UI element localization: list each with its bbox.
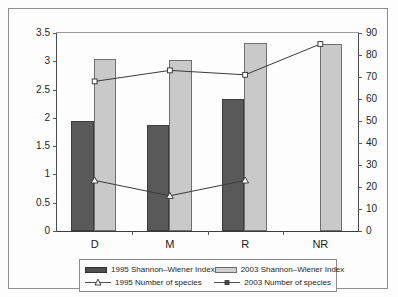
right-axis-tick: [358, 121, 362, 122]
x-axis-label-r: R: [241, 239, 249, 250]
left-axis-tick-label: 1: [44, 169, 50, 179]
line-2003-species: [95, 44, 321, 81]
legend-item-1995-index: 1995 Shannon–Wiener Index: [85, 265, 215, 274]
x-axis-tick: [283, 231, 284, 235]
line-square-marker-icon: [214, 278, 240, 287]
figure-frame: 00.511.522.533.5 0102030405060708090 DMR…: [8, 8, 388, 289]
right-axis-tick: [358, 231, 362, 232]
bar-swatch-1995-icon: [85, 267, 107, 273]
left-axis-tick-label: 1.5: [36, 141, 50, 151]
left-axis-tick-label: 3: [44, 56, 50, 66]
left-axis-tick-label: 0.5: [36, 198, 50, 208]
legend-item-2003-index: 2003 Shannon–Wiener Index: [215, 265, 345, 274]
right-axis-tick-label: 30: [366, 160, 377, 170]
right-axis-tick-label: 70: [366, 72, 377, 82]
x-axis-tick: [208, 231, 209, 235]
x-axis-label-m: M: [165, 239, 174, 250]
plot-area: 00.511.522.533.5 0102030405060708090 DMR…: [56, 33, 359, 231]
right-axis-tick: [358, 55, 362, 56]
right-axis-tick-label: 50: [366, 116, 377, 126]
right-axis-tick-label: 80: [366, 50, 377, 60]
x-axis-label-d: D: [91, 239, 99, 250]
chart-screenshot: 00.511.522.533.5 0102030405060708090 DMR…: [0, 0, 398, 297]
data-point-marker: [242, 177, 249, 183]
chart-legend: 1995 Shannon–Wiener Index 2003 Shannon–W…: [79, 259, 337, 292]
right-axis-tick-label: 90: [366, 28, 377, 38]
right-axis-tick: [358, 99, 362, 100]
legend-row-lines: 1995 Number of species 2003 Number of sp…: [85, 276, 331, 289]
right-axis-tick: [358, 209, 362, 210]
legend-label-2003-species: 2003 Number of species: [244, 278, 331, 287]
left-axis-tick-label: 2: [44, 113, 50, 123]
legend-label-2003-index: 2003 Shannon–Wiener Index: [241, 265, 345, 274]
x-axis-tick: [132, 231, 133, 235]
right-axis-tick-label: 60: [366, 94, 377, 104]
data-point-marker: [167, 68, 172, 73]
legend-item-1995-species: 1995 Number of species: [85, 278, 214, 287]
right-axis-tick-label: 0: [366, 226, 372, 236]
left-axis-tick: [53, 231, 57, 232]
bar-swatch-2003-icon: [215, 267, 237, 273]
line-series-group: [57, 33, 358, 231]
right-axis-tick-label: 10: [366, 204, 377, 214]
right-axis-tick: [358, 77, 362, 78]
line-triangle-marker-icon: [85, 278, 111, 287]
left-axis-tick-label: 3.5: [36, 28, 50, 38]
left-axis-tick-label: 2.5: [36, 85, 50, 95]
right-axis-tick: [358, 165, 362, 166]
data-point-marker: [318, 42, 323, 47]
left-axis-tick-label: 0: [44, 226, 50, 236]
legend-label-1995-species: 1995 Number of species: [115, 278, 202, 287]
legend-row-bars: 1995 Shannon–Wiener Index 2003 Shannon–W…: [85, 263, 331, 276]
x-axis-label-nr: NR: [312, 239, 328, 250]
right-axis-tick-label: 20: [366, 182, 377, 192]
right-axis-tick: [358, 143, 362, 144]
data-point-marker: [91, 177, 98, 183]
data-point-marker: [92, 79, 97, 84]
data-point-marker: [243, 72, 248, 77]
legend-item-2003-species: 2003 Number of species: [214, 278, 331, 287]
legend-label-1995-index: 1995 Shannon–Wiener Index: [111, 265, 215, 274]
right-axis-tick-label: 40: [366, 138, 377, 148]
right-axis-tick: [358, 187, 362, 188]
right-axis-tick: [358, 33, 362, 34]
